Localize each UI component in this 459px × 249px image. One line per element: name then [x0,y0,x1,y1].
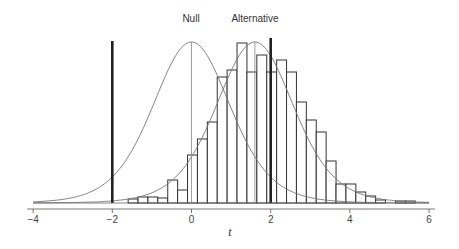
histogram-bar [158,198,168,203]
x-tick-label: −4 [27,214,39,225]
chart: −4−20246 Null Alternative t [0,0,459,249]
histogram-bar [188,155,198,203]
histogram-bar [336,184,346,203]
x-tick-label: −2 [107,214,119,225]
histogram-bar [277,60,287,203]
histogram-bar [148,197,158,203]
histogram-bar [178,190,188,203]
histogram-bar [227,70,237,203]
histogram-bar [306,120,316,203]
null-label: Null [182,13,199,24]
alternative-label: Alternative [231,13,279,24]
histogram-bar [197,139,207,203]
histogram-bar [237,43,247,203]
histogram-bar [326,161,336,203]
histogram-bar [128,199,138,203]
histogram-bar [138,197,148,203]
histogram-bar [346,184,356,203]
x-tick-label: 0 [189,214,195,225]
histogram-bar [257,55,267,203]
x-axis-label: t [228,225,232,239]
x-axis: −4−20246 [27,209,435,225]
histogram-bar [168,180,178,203]
histogram-bar [316,132,326,203]
histogram-bar [247,72,257,203]
histogram-bar [207,122,217,203]
x-tick-label: 4 [347,214,353,225]
x-tick-label: 6 [426,214,432,225]
x-tick-label: 2 [268,214,274,225]
